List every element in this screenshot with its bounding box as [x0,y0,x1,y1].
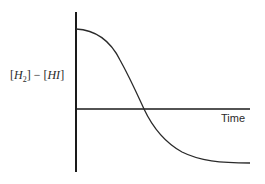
y-axis-label: [H2] − [HI] [10,68,64,84]
chart-canvas [0,0,265,184]
chart: [H2] − [HI] Time [0,0,265,184]
x-axis-label: Time [221,112,245,124]
data-curve [76,29,250,163]
